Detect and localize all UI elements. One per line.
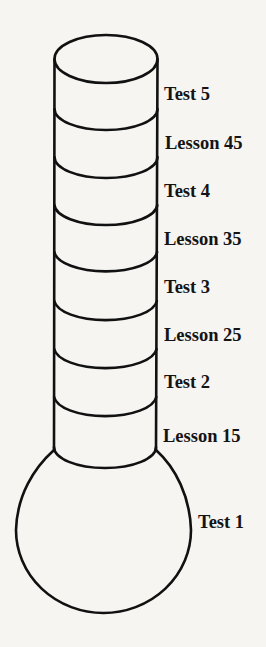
band-divider-8 <box>54 447 156 468</box>
label-test-2: Test 2 <box>164 373 210 392</box>
label-test-3: Test 3 <box>164 278 210 297</box>
band-divider-6 <box>54 349 156 368</box>
label-lesson-15: Lesson 15 <box>163 427 241 446</box>
band-divider-4 <box>54 252 157 271</box>
label-test-4: Test 4 <box>164 182 210 201</box>
band-divider-5 <box>54 301 157 320</box>
thermometer-outline <box>0 0 266 647</box>
top-cap-ellipse <box>55 35 158 83</box>
label-test-5: Test 5 <box>164 85 210 104</box>
label-lesson-45: Lesson 45 <box>165 134 243 153</box>
band-divider-1 <box>55 109 158 130</box>
thermometer-diagram: Test 5 Lesson 45 Test 4 Lesson 35 Test 3… <box>0 0 266 647</box>
label-lesson-25: Lesson 25 <box>164 326 242 345</box>
label-lesson-35: Lesson 35 <box>164 230 242 249</box>
band-divider-3 <box>54 205 157 225</box>
label-test-1: Test 1 <box>198 513 244 532</box>
band-divider-2 <box>55 157 158 178</box>
band-divider-7 <box>54 397 156 416</box>
bulb-outline <box>16 450 191 613</box>
